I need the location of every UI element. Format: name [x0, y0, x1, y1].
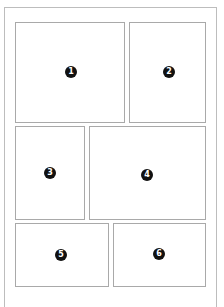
- panel-2: 2: [129, 22, 206, 123]
- panel-3: 3: [15, 126, 85, 220]
- panel-6: 6: [113, 223, 206, 287]
- panel-number-badge: 1: [65, 66, 77, 78]
- panel-number-badge: 4: [141, 169, 153, 181]
- panel-4: 4: [89, 126, 206, 220]
- panel-5: 5: [15, 223, 109, 287]
- panel-number-badge: 5: [55, 249, 67, 261]
- panel-1: 1: [15, 22, 125, 123]
- panel-number-badge: 2: [163, 66, 175, 78]
- panel-number-badge: 6: [153, 248, 165, 260]
- panel-number-badge: 3: [44, 167, 56, 179]
